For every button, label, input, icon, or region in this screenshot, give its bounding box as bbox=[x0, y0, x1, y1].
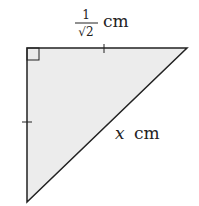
top-label-denominator: √2 bbox=[78, 25, 93, 39]
triangle-diagram: 1 √2 cm x cm bbox=[0, 0, 199, 206]
triangle bbox=[27, 48, 187, 202]
hyp-label-unit: cm bbox=[134, 123, 160, 143]
top-label-unit: cm bbox=[103, 11, 129, 31]
hyp-label-var: x bbox=[115, 123, 125, 143]
top-label-numerator: 1 bbox=[82, 8, 90, 22]
